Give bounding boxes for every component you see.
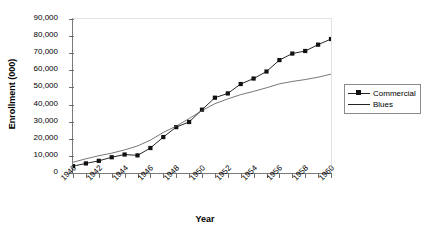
legend-key-line-icon bbox=[348, 99, 370, 110]
series-marker bbox=[84, 161, 88, 165]
series-marker bbox=[264, 69, 268, 73]
chart-legend: Commercial Blues bbox=[344, 84, 421, 114]
series-marker bbox=[161, 135, 165, 139]
y-axis-tick-mark bbox=[69, 53, 74, 54]
series-marker bbox=[213, 96, 217, 100]
series-line bbox=[73, 74, 331, 162]
series-marker bbox=[110, 155, 114, 159]
legend-key-square-line-icon bbox=[348, 88, 370, 99]
legend-item-blues[interactable]: Blues bbox=[348, 99, 416, 110]
y-axis-tick-mark bbox=[69, 19, 74, 20]
y-axis-tick-label: 20,000 bbox=[18, 134, 58, 142]
legend-label: Commercial bbox=[373, 89, 416, 98]
y-axis-tick-label: 10,000 bbox=[18, 151, 58, 159]
series-marker bbox=[135, 153, 139, 157]
y-axis-tick-mark bbox=[69, 87, 74, 88]
y-axis-tick-mark bbox=[69, 156, 74, 157]
y-axis-tick-label: 70,000 bbox=[18, 48, 58, 56]
y-axis-tick-label: 50,000 bbox=[18, 82, 58, 90]
y-axis-tick-labels: 010,00020,00030,00040,00050,00060,00070,… bbox=[18, 13, 58, 177]
series-marker bbox=[239, 82, 243, 86]
y-axis-title-text: Enrollment (000) bbox=[7, 59, 17, 130]
legend-item-commercial[interactable]: Commercial bbox=[348, 88, 416, 99]
series-marker bbox=[187, 120, 191, 124]
x-axis-title: Year bbox=[150, 214, 260, 224]
y-axis-tick-label: 80,000 bbox=[18, 31, 58, 39]
y-axis-tick-label: 40,000 bbox=[18, 100, 58, 108]
plot-area bbox=[72, 18, 332, 174]
series-marker bbox=[329, 37, 331, 41]
series-canvas bbox=[73, 19, 331, 173]
y-axis-tick-mark bbox=[69, 139, 74, 140]
y-axis-tick-mark bbox=[69, 70, 74, 71]
y-axis-tick-mark bbox=[69, 36, 74, 37]
series-marker bbox=[123, 152, 127, 156]
series-marker bbox=[148, 146, 152, 150]
series-marker bbox=[277, 58, 281, 62]
series-line bbox=[73, 39, 331, 166]
y-axis-tick-mark bbox=[69, 122, 74, 123]
series-marker bbox=[252, 76, 256, 80]
y-axis-tick-label: 60,000 bbox=[18, 65, 58, 73]
series-marker bbox=[226, 91, 230, 95]
legend-label: Blues bbox=[373, 100, 393, 109]
y-axis-tick-mark bbox=[69, 105, 74, 106]
series-marker bbox=[303, 49, 307, 53]
x-axis-tick-labels: 1940194219441946194819501952195419561958… bbox=[0, 176, 411, 212]
series-marker bbox=[290, 51, 294, 55]
y-axis-tick-label: 30,000 bbox=[18, 117, 58, 125]
y-axis-tick-label: 0 bbox=[18, 168, 58, 176]
y-axis-tick-label: 90,000 bbox=[18, 14, 58, 22]
series-marker bbox=[316, 43, 320, 47]
